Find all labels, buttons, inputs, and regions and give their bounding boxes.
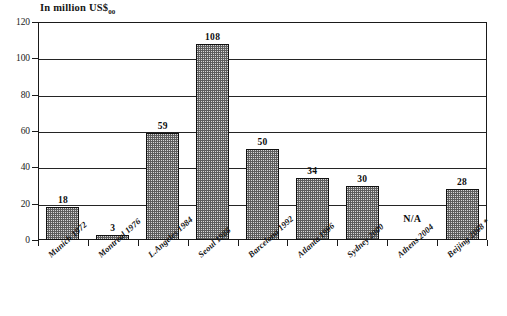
y-axis-tick-label: 40 <box>2 162 30 172</box>
x-axis-tick <box>387 240 388 246</box>
x-axis-tick <box>287 240 288 246</box>
x-axis-tick <box>337 240 338 246</box>
bar-value-label: 28 <box>442 177 482 187</box>
x-axis-tick <box>487 240 488 246</box>
x-axis-tick <box>238 240 239 246</box>
bar-value-label: 59 <box>143 121 183 131</box>
y-axis-title-text: In million US$ <box>40 2 108 13</box>
y-axis-tick <box>32 22 39 23</box>
bar-value-label: 50 <box>243 137 283 147</box>
y-axis-tick <box>32 58 39 59</box>
bar-value-label: 30 <box>342 174 382 184</box>
x-axis-tick <box>188 240 189 246</box>
bar <box>196 44 229 240</box>
gridline <box>39 59 486 60</box>
y-axis-tick-label: 20 <box>2 199 30 209</box>
bar <box>146 133 179 240</box>
y-axis-tick <box>32 131 39 132</box>
bar-value-label: 18 <box>43 195 83 205</box>
y-axis-tick-label: 60 <box>2 126 30 136</box>
x-axis-tick <box>38 240 39 246</box>
bar-chart-figure: In million US$00 020406080100120 1835910… <box>0 0 507 316</box>
y-axis-tick-label: 0 <box>2 235 30 245</box>
y-axis-title-subscript: 00 <box>108 8 115 16</box>
x-axis-tick <box>88 240 89 246</box>
y-axis-tick <box>32 167 39 168</box>
x-axis-tick <box>138 240 139 246</box>
gridline <box>39 132 486 133</box>
y-axis-title: In million US$00 <box>40 2 115 16</box>
y-axis-tick-label: 80 <box>2 90 30 100</box>
gridline <box>39 96 486 97</box>
y-axis-tick <box>32 204 39 205</box>
y-axis-tick <box>32 95 39 96</box>
bar-value-label: 34 <box>292 166 332 176</box>
y-axis-tick-label: 120 <box>2 17 30 27</box>
y-axis-tick-label: 100 <box>2 53 30 63</box>
x-axis-tick <box>437 240 438 246</box>
bar-value-label: 108 <box>193 32 233 42</box>
